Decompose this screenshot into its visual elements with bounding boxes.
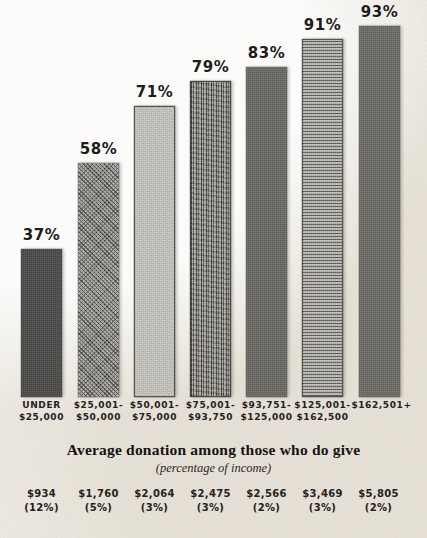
footer-amount: $2,064 bbox=[134, 488, 174, 499]
x-tick-line2: $162,500 bbox=[291, 411, 354, 423]
bar-75001-93750[interactable] bbox=[190, 81, 231, 397]
x-tick-line1: $25,001- bbox=[74, 400, 124, 410]
x-tick-162501-plus: $162,501+ bbox=[350, 399, 413, 411]
footer-donation-values: $934 (12%) $1,760 (5%) $2,064 (3%) $2,47… bbox=[0, 487, 427, 521]
footer-pct-of-income: (2%) bbox=[347, 501, 410, 515]
x-tick-line2: $75,000 bbox=[123, 411, 186, 423]
footer-value-25001-50000: $1,760 (5%) bbox=[67, 487, 130, 515]
bar-value-label: 58% bbox=[69, 140, 128, 158]
bar-value-label: 71% bbox=[125, 83, 184, 101]
x-tick-93751-125000: $93,751- $125,000 bbox=[235, 399, 298, 423]
bar-value-label: 83% bbox=[237, 44, 296, 62]
footer-amount: $1,760 bbox=[78, 488, 118, 499]
footer-pct-of-income: (2%) bbox=[235, 501, 298, 515]
footer-pct-of-income: (3%) bbox=[291, 501, 354, 515]
bar-162501-plus[interactable] bbox=[359, 26, 400, 397]
bar-25001-50000[interactable] bbox=[78, 163, 119, 397]
bar-50001-75000[interactable] bbox=[134, 106, 175, 397]
footer-pct-of-income: (3%) bbox=[179, 501, 242, 515]
footer-pct-of-income: (3%) bbox=[123, 501, 186, 515]
bar-value-label: 37% bbox=[12, 226, 71, 244]
bar-125001-162500[interactable] bbox=[302, 39, 343, 397]
bar-value-label: 91% bbox=[293, 16, 352, 34]
x-tick-line1: $50,001- bbox=[130, 400, 180, 410]
footer-amount: $3,469 bbox=[302, 488, 342, 499]
x-tick-line2: $25,000 bbox=[10, 411, 73, 423]
footer-amount: $934 bbox=[27, 488, 56, 499]
footer-amount: $2,566 bbox=[246, 488, 286, 499]
x-tick-line1: $125,001- bbox=[294, 400, 350, 410]
bar-value-label: 93% bbox=[350, 3, 409, 21]
bar-chart-plot-area: 37% 58% 71% 79% 83% 91% 93% bbox=[0, 0, 427, 397]
caption-title: Average donation among those who do give bbox=[0, 441, 427, 459]
caption-subtitle: (percentage of income) bbox=[0, 461, 427, 476]
footer-value-under-25000: $934 (12%) bbox=[10, 487, 73, 515]
bar-under-25000[interactable] bbox=[21, 249, 62, 397]
bar-value-label: 79% bbox=[181, 58, 240, 76]
chart-page: 37% 58% 71% 79% 83% 91% 93% bbox=[0, 0, 427, 538]
x-tick-line2: $125,000 bbox=[235, 411, 298, 423]
x-tick-line1: $75,001- bbox=[186, 400, 236, 410]
x-tick-line2: $93,750 bbox=[179, 411, 242, 423]
footer-value-75001-93750: $2,475 (3%) bbox=[179, 487, 242, 515]
bar-93751-125000[interactable] bbox=[246, 67, 287, 397]
footer-pct-of-income: (12%) bbox=[10, 501, 73, 515]
footer-value-93751-125000: $2,566 (2%) bbox=[235, 487, 298, 515]
x-tick-125001-162500: $125,001- $162,500 bbox=[291, 399, 354, 423]
footer-amount: $2,475 bbox=[190, 488, 230, 499]
x-tick-25001-50000: $25,001- $50,000 bbox=[67, 399, 130, 423]
footer-value-125001-162500: $3,469 (3%) bbox=[291, 487, 354, 515]
x-tick-75001-93750: $75,001- $93,750 bbox=[179, 399, 242, 423]
x-tick-line1: $162,501+ bbox=[351, 400, 411, 410]
footer-value-162501-plus: $5,805 (2%) bbox=[347, 487, 410, 515]
x-axis-tick-labels: UNDER $25,000 $25,001- $50,000 $50,001- … bbox=[0, 399, 427, 429]
x-tick-line1: UNDER bbox=[22, 400, 60, 410]
footer-amount: $5,805 bbox=[358, 488, 398, 499]
footer-pct-of-income: (5%) bbox=[67, 501, 130, 515]
x-tick-50001-75000: $50,001- $75,000 bbox=[123, 399, 186, 423]
x-tick-line2: $50,000 bbox=[67, 411, 130, 423]
x-tick-line1: $93,751- bbox=[242, 400, 292, 410]
x-tick-under-25000: UNDER $25,000 bbox=[10, 399, 73, 423]
footer-value-50001-75000: $2,064 (3%) bbox=[123, 487, 186, 515]
chart-caption: Average donation among those who do give… bbox=[0, 441, 427, 476]
